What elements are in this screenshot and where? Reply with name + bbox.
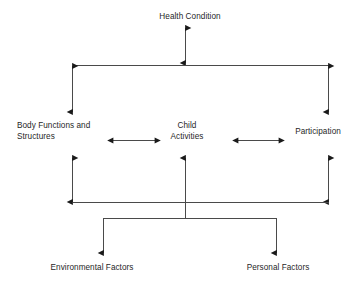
diagram-connector-layer [0,0,355,290]
node-label-environmental-factors: Environmental Factors [33,263,151,274]
node-label-health-condition: Health Condition [145,12,235,23]
icf-model-diagram: Health Condition Body Functions and Stru… [0,0,355,290]
node-label-child-activities: Child Activities [160,121,214,142]
node-label-personal-factors: Personal Factors [228,263,328,274]
node-label-body-functions-and-structures: Body Functions and Structures [17,121,109,142]
node-label-participation: Participation [285,127,351,138]
